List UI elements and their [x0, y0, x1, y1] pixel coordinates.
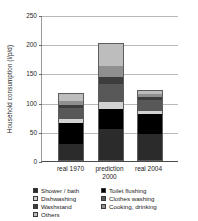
bar-segment-clothes[interactable]	[98, 84, 124, 102]
y-axis-tick-label: 100	[26, 100, 37, 107]
legend-swatch-toilet	[101, 188, 106, 193]
bar-segment-cook[interactable]	[98, 66, 124, 77]
gridline	[42, 16, 178, 17]
legend-label: Toilet flushing	[109, 187, 147, 194]
legend-label: Clothes washing	[109, 195, 154, 202]
legend-swatch-others	[33, 212, 38, 217]
legend-item-clothes[interactable]: Clothes washing	[101, 195, 177, 202]
plot-area: 050100150200250	[41, 16, 178, 162]
x-axis-label-2: real 2004	[117, 165, 181, 173]
legend-swatch-shower	[33, 188, 38, 193]
y-axis-tick	[39, 16, 42, 17]
chart-legend: Shower / bathToilet flushingDishwashingC…	[33, 186, 183, 219]
y-axis-tick-label: 200	[26, 42, 37, 49]
bar-segment-toilet[interactable]	[58, 123, 84, 144]
legend-item-dish[interactable]: Dishwashing	[33, 195, 95, 202]
legend-swatch-wash	[33, 204, 38, 209]
bar-segment-dish[interactable]	[98, 102, 124, 109]
legend-swatch-clothes	[101, 196, 106, 201]
legend-label: Cooking, drinking	[109, 203, 157, 210]
bar-segment-others[interactable]	[58, 93, 84, 102]
legend-item-wash[interactable]: Washstand	[33, 203, 95, 210]
legend-swatch-dish	[33, 196, 38, 201]
legend-item-cook[interactable]: Cooking, drinking	[101, 203, 177, 210]
bar-segment-toilet[interactable]	[98, 109, 124, 129]
bar-segment-clothes[interactable]	[58, 108, 84, 119]
legend-label: Washstand	[41, 203, 72, 210]
y-axis-label: Household consumption (l/p/d)	[5, 16, 15, 162]
y-axis-tick	[39, 74, 42, 75]
legend-swatch-cook	[101, 204, 106, 209]
chart-figure: Household consumption (l/p/d) 0501001502…	[0, 0, 198, 221]
x-axis-label-line: real 2004	[117, 165, 181, 173]
y-axis-tick-label: 0	[33, 159, 37, 166]
bar-real-2004[interactable]	[137, 90, 163, 161]
legend-item-others[interactable]: Others	[33, 211, 95, 218]
legend-item-toilet[interactable]: Toilet flushing	[101, 187, 177, 194]
bar-real-1970[interactable]	[58, 93, 84, 161]
y-axis-tick	[39, 45, 42, 46]
bar-segment-toilet[interactable]	[137, 114, 163, 134]
y-axis-tick-label: 250	[26, 13, 37, 20]
y-axis-tick	[39, 104, 42, 105]
bar-segment-clothes[interactable]	[137, 100, 163, 112]
bar-segment-others[interactable]	[98, 43, 124, 66]
legend-label: Others	[41, 211, 60, 218]
bar-segment-shower[interactable]	[98, 129, 124, 161]
bar-segment-shower[interactable]	[137, 134, 163, 161]
y-axis-tick-label: 150	[26, 71, 37, 78]
y-axis-tick	[39, 133, 42, 134]
legend-item-shower[interactable]: Shower / bath	[33, 187, 95, 194]
bar-segment-shower[interactable]	[58, 144, 84, 161]
bar-segment-wash[interactable]	[98, 77, 124, 84]
legend-label: Dishwashing	[41, 195, 76, 202]
y-axis-tick-label: 50	[30, 130, 37, 137]
y-axis-tick	[39, 162, 42, 163]
bar-prediction-2000[interactable]	[98, 43, 124, 161]
x-axis-label-line: 2000	[78, 173, 142, 181]
legend-label: Shower / bath	[41, 187, 79, 194]
